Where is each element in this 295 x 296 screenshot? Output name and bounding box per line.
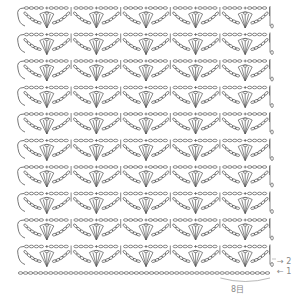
row-1-marker: ← 1 [277,268,291,276]
repeat-label: 8目 [231,286,244,294]
row-2-marker: → 2 [277,258,291,266]
crochet-chart [0,0,295,296]
